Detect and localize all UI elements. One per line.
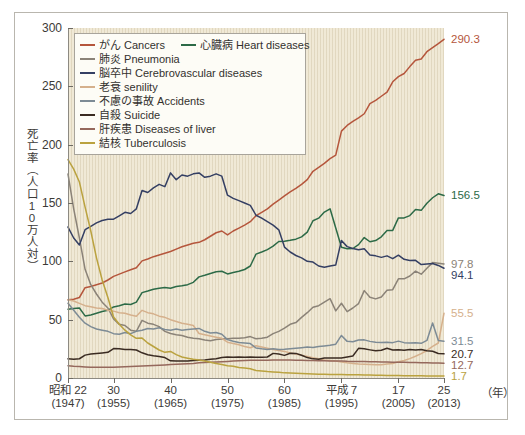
legend-row: 結核 Tuberculosis xyxy=(80,136,299,150)
series-end-value-label: 1.7 xyxy=(451,370,467,382)
legend-label: 肝疾患 Diseases of liver xyxy=(99,123,216,135)
legend-row: 肝疾患 Diseases of liver xyxy=(80,122,299,136)
legend-color-swatch-icon xyxy=(80,100,95,102)
legend-row: がん Cancers心臓病 Heart diseases xyxy=(80,38,299,52)
legend-row: 脳卒中 Cerebrovascular diseases xyxy=(80,66,299,80)
y-tick-label: 100 xyxy=(22,255,62,267)
chart-legend: がん Cancers心臓病 Heart diseases肺炎 Pneumonia… xyxy=(74,33,306,155)
y-tick-label: 0 xyxy=(22,372,62,384)
legend-label: 心臓病 Heart diseases xyxy=(200,39,309,51)
x-tick-era: 25 xyxy=(409,384,479,397)
legend-label: 脳卒中 Cerebrovascular diseases xyxy=(99,67,262,79)
legend-item[interactable]: 老衰 senility xyxy=(80,81,158,93)
y-tick-label: 200 xyxy=(22,139,62,151)
legend-color-swatch-icon xyxy=(80,72,95,74)
legend-color-swatch-icon xyxy=(80,58,95,60)
x-axis-line xyxy=(68,378,445,379)
legend-label: 不慮の事故 Accidents xyxy=(99,95,205,107)
series-line xyxy=(68,303,444,349)
legend-label: がん Cancers xyxy=(99,39,165,51)
legend-label: 結核 Tuberculosis xyxy=(99,137,186,149)
x-tick-mark xyxy=(171,378,172,383)
legend-item[interactable]: 肺炎 Pneumonia xyxy=(80,53,180,65)
y-tick-mark xyxy=(68,28,73,29)
y-tick-label: 50 xyxy=(22,314,62,326)
legend-color-swatch-icon xyxy=(80,44,95,46)
y-tick-mark xyxy=(68,145,73,146)
y-tick-label: 300 xyxy=(22,22,62,34)
legend-color-swatch-icon xyxy=(80,142,95,144)
legend-label: 自殺 Suicide xyxy=(99,109,160,121)
legend-color-swatch-icon xyxy=(80,128,95,130)
legend-row: 不慮の事故 Accidents xyxy=(80,94,299,108)
legend-item[interactable]: 心臓病 Heart diseases xyxy=(181,39,309,51)
legend-label: 肺炎 Pneumonia xyxy=(99,53,180,65)
y-tick-label: 250 xyxy=(22,80,62,92)
legend-item[interactable]: 自殺 Suicide xyxy=(80,109,160,121)
legend-row: 老衰 senility xyxy=(80,80,299,94)
x-tick-mark xyxy=(341,378,342,383)
series-end-value-label: 55.5 xyxy=(451,307,473,319)
legend-item[interactable]: 結核 Tuberculosis xyxy=(80,137,186,149)
y-tick-mark xyxy=(68,261,73,262)
legend-label: 老衰 senility xyxy=(99,81,158,93)
y-tick-label: 150 xyxy=(22,197,62,209)
series-line xyxy=(68,348,444,361)
x-tick-mark xyxy=(114,378,115,383)
x-tick-mark xyxy=(398,378,399,383)
legend-item[interactable]: 脳卒中 Cerebrovascular diseases xyxy=(80,67,262,79)
caption-strip-clipped xyxy=(14,424,508,433)
legend-color-swatch-icon xyxy=(181,44,196,46)
x-tick-mark xyxy=(284,378,285,383)
y-tick-mark xyxy=(68,86,73,87)
legend-item[interactable]: がん Cancers xyxy=(80,39,165,51)
series-end-value-label: 156.5 xyxy=(451,189,480,201)
legend-color-swatch-icon xyxy=(80,86,95,88)
x-tick-year: (2013) xyxy=(409,397,479,410)
y-tick-mark xyxy=(68,320,73,321)
legend-item[interactable]: 不慮の事故 Accidents xyxy=(80,95,205,107)
x-axis-unit-label: （年） xyxy=(481,384,514,400)
x-tick-mark xyxy=(68,378,69,383)
series-line xyxy=(68,160,444,376)
series-line xyxy=(68,174,444,341)
x-tick-label: 25(2013) xyxy=(409,384,479,410)
series-end-value-label: 290.3 xyxy=(451,33,480,45)
legend-item[interactable]: 肝疾患 Diseases of liver xyxy=(80,123,216,135)
series-end-value-label: 31.5 xyxy=(451,335,473,347)
series-end-value-label: 94.1 xyxy=(451,269,473,281)
x-tick-mark xyxy=(444,378,445,383)
y-tick-mark xyxy=(68,203,73,204)
x-tick-mark xyxy=(228,378,229,383)
legend-color-swatch-icon xyxy=(80,114,95,116)
legend-row: 肺炎 Pneumonia xyxy=(80,52,299,66)
mortality-rate-chart-figure: 死亡率（人口10万人対） 050100150200250300 昭和 22(19… xyxy=(0,0,525,435)
legend-row: 自殺 Suicide xyxy=(80,108,299,122)
